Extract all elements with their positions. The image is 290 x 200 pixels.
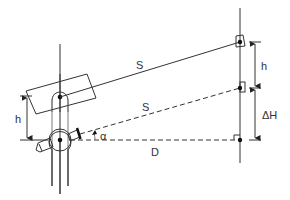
left-dimension	[20, 96, 48, 140]
instrument-center-dot	[58, 138, 63, 143]
label-vertical-angle: α	[100, 130, 107, 142]
top-target-dot	[238, 40, 242, 44]
instrument-assembly	[26, 44, 96, 194]
staff	[234, 8, 245, 163]
label-height-right: h	[261, 60, 267, 72]
slope-line-dashed	[80, 88, 240, 134]
height-measurement-diagram: S S D h ΔH h α	[0, 0, 290, 200]
label-slope-distance-lower: S	[142, 101, 149, 113]
middle-target-dot	[238, 86, 242, 90]
slope-line-solid	[60, 42, 240, 97]
label-height-difference: ΔH	[262, 109, 277, 121]
eyepiece-ring	[39, 144, 42, 151]
label-slope-distance-upper: S	[136, 59, 143, 71]
reflector-plate	[26, 74, 96, 114]
angle-arrow-icon	[92, 130, 97, 135]
bottom-point-dot	[238, 138, 242, 142]
label-height-left: h	[15, 113, 21, 125]
label-horizontal-distance: D	[151, 146, 159, 158]
right-dimensions	[249, 42, 261, 140]
